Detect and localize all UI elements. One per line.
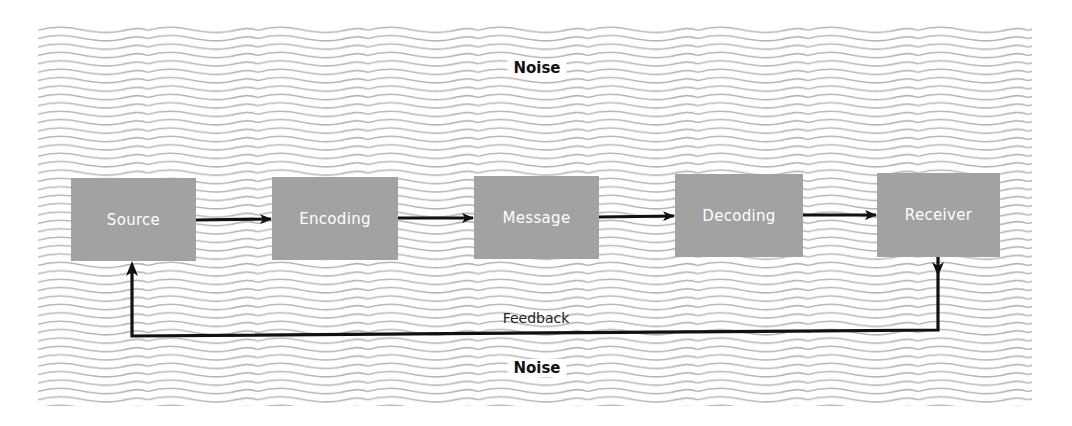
node-receiver: Receiver (877, 173, 1000, 257)
node-decoding: Decoding (675, 174, 803, 257)
feedback-label: Feedback (503, 310, 570, 326)
node-source: Source (71, 178, 196, 261)
node-message: Message (474, 176, 599, 259)
node-encoding: Encoding (272, 177, 398, 260)
noise-label-bottom: Noise (507, 359, 566, 377)
communication-diagram: Noise Noise Feedback Source Encoding Mes… (0, 0, 1072, 426)
noise-label-top: Noise (507, 59, 566, 77)
